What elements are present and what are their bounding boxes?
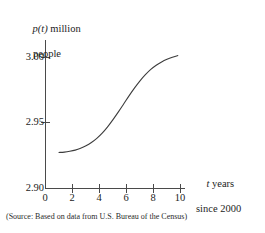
- x-axis-label: t years since 2000: [196, 165, 241, 233]
- y-axis-label-units: million: [48, 23, 81, 34]
- x-tick-label-8: 8: [144, 192, 162, 203]
- x-tick-label-0: 0: [36, 192, 54, 203]
- x-axis-label-line2: since 2000: [196, 203, 241, 216]
- x-tick-label-4: 4: [90, 192, 108, 203]
- source-note: (Source: Based on data from U.S. Bureau …: [6, 212, 187, 221]
- x-axis-label-units: years: [209, 178, 234, 189]
- population-growth-chart: p(t) million people t years since 2000 3…: [0, 0, 265, 233]
- y-tick-label-300: 3.00: [10, 51, 44, 62]
- y-axis-label-variable: p(t): [33, 23, 48, 34]
- y-tick-label-295: 2.95: [10, 116, 44, 127]
- x-tick-label-10: 10: [171, 192, 189, 203]
- x-tick-label-6: 6: [117, 192, 135, 203]
- x-tick-label-2: 2: [63, 192, 81, 203]
- y-axis-label: p(t) million people: [22, 10, 81, 85]
